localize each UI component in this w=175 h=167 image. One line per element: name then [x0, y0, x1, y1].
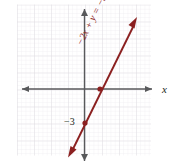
coordinate-plane-figure: x −3 −2x + y = −3 [0, 0, 175, 167]
y-intercept-value-label: −3 [64, 117, 75, 127]
y-axis-arrow-down-icon [81, 154, 88, 161]
x-intercept-point [97, 86, 102, 91]
y-intercept-point [82, 120, 87, 125]
x-axis-label: x [162, 84, 167, 95]
